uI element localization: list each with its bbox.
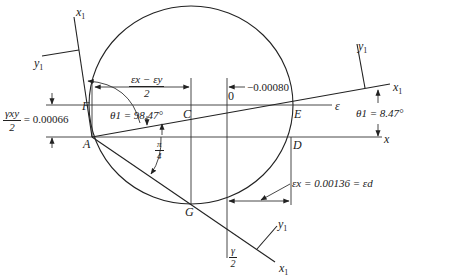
- eps-x-leader: [261, 184, 290, 200]
- point-g-label: G: [185, 206, 194, 218]
- x1-label-top: x1: [76, 6, 85, 21]
- point-d-label: D: [293, 139, 302, 151]
- point-origin-label: 0: [228, 90, 234, 102]
- x1-axis-lower: [92, 137, 275, 262]
- x1-label-right: x1: [393, 81, 402, 96]
- offset-value-label: −0.00080: [247, 82, 289, 93]
- eps-x-value-label: εx = 0.00136 = εd: [292, 178, 373, 189]
- y1-branch-left: [42, 50, 79, 56]
- y1-label-left: y1: [34, 57, 43, 72]
- y1-branch-lower: [257, 226, 277, 249]
- x1-label-lower: x1: [279, 262, 288, 277]
- gamma-xy-label: γxy2 = 0.00066: [3, 108, 69, 133]
- x1-axis-steep: [74, 17, 92, 137]
- point-c-label: C: [183, 108, 191, 120]
- point-e-label: E: [294, 108, 301, 120]
- pi-quarter-label: π4: [155, 140, 164, 161]
- y1-label-right: y1: [358, 40, 367, 55]
- theta-small-label: θ1 = 8.47°: [356, 108, 403, 119]
- theta-large-label: θ1 = 98.47°: [110, 110, 163, 121]
- x-axis-label: x: [384, 133, 389, 145]
- point-f-label: F: [82, 100, 89, 112]
- point-a-label: A: [83, 138, 90, 150]
- y1-label-lower: y1: [278, 218, 287, 233]
- epsilon-axis-label: ε: [335, 100, 340, 112]
- mohrs-circle-diagram: [0, 0, 460, 280]
- half-diff-label: εx − εy2: [129, 74, 164, 99]
- gamma-half-label: γ2: [229, 246, 237, 269]
